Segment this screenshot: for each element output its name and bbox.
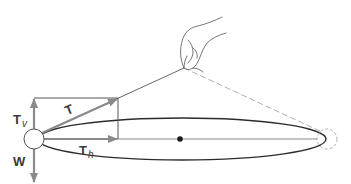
label-W: W xyxy=(13,155,25,168)
label-Th-main: T xyxy=(79,143,87,158)
hand-icon xyxy=(181,17,226,72)
label-Th: Th xyxy=(79,144,94,157)
dashed-string xyxy=(184,68,322,132)
label-W-main: W xyxy=(13,154,25,169)
dashed-ball-opposite xyxy=(317,129,337,149)
label-Tv-sub: v xyxy=(22,118,27,129)
label-Th-sub: h xyxy=(88,149,94,160)
force-diagram xyxy=(0,0,351,184)
ball xyxy=(24,129,44,149)
label-Tv-main: T xyxy=(13,112,21,127)
center-point xyxy=(177,136,183,142)
label-Tv: Tv xyxy=(13,113,27,126)
arrow-T xyxy=(42,99,117,133)
